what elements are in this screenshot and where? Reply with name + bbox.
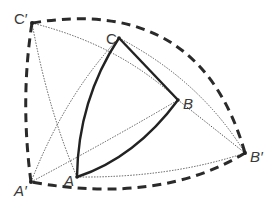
vertex-bprime bbox=[243, 151, 247, 155]
vertex-a bbox=[75, 175, 79, 179]
dashed-triangle bbox=[26, 19, 245, 189]
solid-triangle bbox=[77, 38, 178, 177]
arc-aprime-b bbox=[31, 100, 178, 182]
label-b: B bbox=[183, 95, 193, 112]
label-a: A bbox=[63, 172, 74, 189]
label-c: C bbox=[106, 30, 117, 47]
label-cprime: C′ bbox=[14, 10, 28, 27]
dotted-arcs bbox=[31, 23, 245, 182]
arc-a-bprime bbox=[77, 153, 245, 177]
label-bprime: B′ bbox=[250, 148, 264, 165]
vertex-cprime bbox=[30, 21, 34, 25]
vertex-c bbox=[117, 36, 121, 40]
label-aprime: A′ bbox=[13, 182, 28, 199]
arc-c-bprime bbox=[119, 38, 245, 153]
edge-a-c bbox=[77, 38, 119, 177]
vertex-b bbox=[176, 98, 180, 102]
edge-aprime-cprime bbox=[26, 23, 32, 182]
arc-cprime-a bbox=[32, 23, 77, 177]
vertex-aprime bbox=[29, 180, 33, 184]
edge-cprime-bprime bbox=[32, 19, 245, 153]
edge-b-a bbox=[77, 100, 178, 177]
spherical-triangle-diagram: A B C A′ B′ C′ bbox=[0, 0, 275, 208]
vertices bbox=[29, 21, 247, 184]
